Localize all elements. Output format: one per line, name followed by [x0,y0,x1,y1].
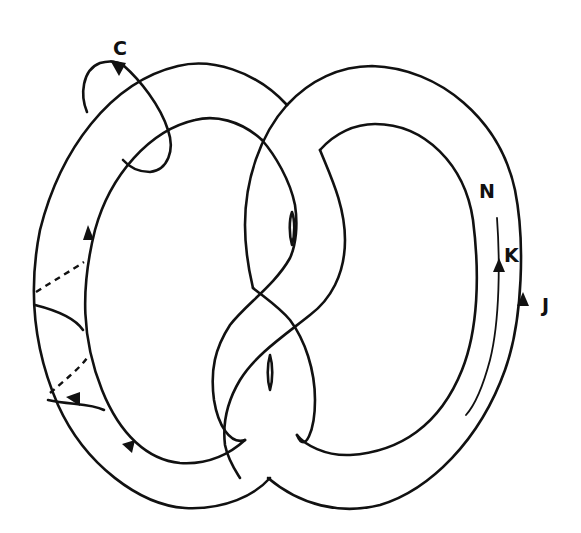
left-band [34,64,287,509]
left-lower-arrowhead [122,440,135,453]
solid-arc-middle [35,305,83,330]
curve-c-arrowhead [110,60,126,76]
twist-slit-upper [290,212,295,245]
left-band-arcs [35,262,104,410]
dashed-arc-upper [36,262,84,292]
right-curves: N K J [466,180,549,415]
twist-lower-right-edge [253,288,315,442]
label-n: N [479,180,495,202]
central-twist [213,105,345,478]
label-c: C [113,37,127,59]
left-band-inner-edge [85,118,262,463]
left-oriented-curve [83,225,135,453]
curve-k [466,218,499,415]
left-inner-arrowhead-up [83,225,94,240]
curve-c: C [83,37,170,172]
dashed-arc-lower [50,358,87,393]
label-k: K [504,244,520,266]
knot-band-diagram: C N K J [0,0,581,533]
right-band-inner-edge [297,124,477,455]
twist-slit-lower [268,355,273,390]
label-j: J [540,294,549,316]
